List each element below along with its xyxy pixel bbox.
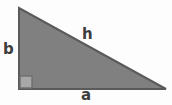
triangle-shape bbox=[19, 8, 166, 89]
label-vertical-leg-b: b bbox=[3, 42, 14, 57]
label-horizontal-leg-a: a bbox=[81, 88, 91, 103]
label-hypotenuse-h: h bbox=[82, 27, 93, 42]
right-angle-square bbox=[20, 76, 32, 88]
diagram-canvas: b h a bbox=[0, 0, 172, 105]
